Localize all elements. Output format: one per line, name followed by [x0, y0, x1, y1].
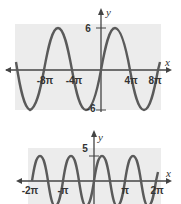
y-axis-name-bottom: y	[97, 131, 103, 143]
x-label-8pi: 8π	[148, 75, 162, 86]
y-max-label-bottom: 5	[82, 143, 88, 154]
x-label-neg8pi: -8π	[37, 75, 54, 86]
x-axis-left-arrow-icon	[5, 67, 11, 73]
y-axis-up-arrow-icon	[98, 8, 104, 15]
graph-bottom: 5 y x -2π -π π 2π	[0, 115, 181, 204]
graph-top-svg: 6 -6 y x -8π -4π 4π 8π	[0, 0, 181, 115]
x-label-4pi: 4π	[124, 75, 138, 86]
x-axis-name-bottom: x	[165, 167, 171, 179]
x-label-pi: π	[121, 185, 129, 196]
x-label-2pi: 2π	[150, 185, 164, 196]
x-axis-left-arrow-icon	[16, 178, 22, 184]
graph-bottom-svg: 5 y x -2π -π π 2π	[0, 115, 181, 204]
x-label-neg2pi: -2π	[22, 185, 39, 196]
y-max-label-top: 6	[85, 23, 91, 34]
x-label-negpi: -π	[58, 185, 69, 196]
x-label-neg4pi: -4π	[66, 75, 83, 86]
graph-top: 6 -6 y x -8π -4π 4π 8π	[0, 0, 181, 115]
y-axis-name-top: y	[105, 6, 111, 18]
y-axis-up-arrow-icon	[91, 130, 97, 137]
y-min-label-top: -6	[87, 103, 96, 114]
x-axis-name-top: x	[164, 56, 170, 68]
